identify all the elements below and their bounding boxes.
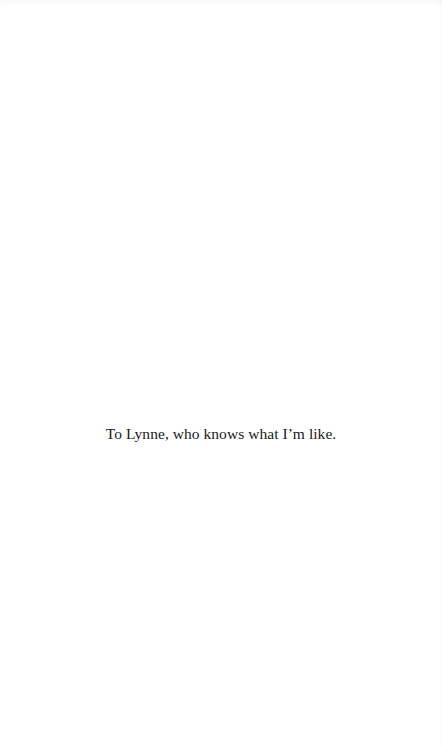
book-page: To Lynne, who knows what I’m like.	[0, 0, 442, 746]
dedication-text: To Lynne, who knows what I’m like.	[0, 424, 442, 444]
